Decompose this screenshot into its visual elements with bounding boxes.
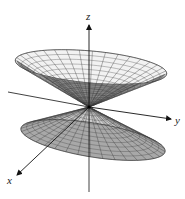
y-axis-arrow: [89, 107, 171, 119]
origin-vertex: [87, 105, 90, 108]
y-axis-label: y: [174, 114, 180, 126]
double-cone-diagram: z y x: [0, 0, 185, 199]
x-axis-label: x: [6, 174, 12, 186]
z-axis-label: z: [85, 10, 91, 22]
upper-cone: [15, 50, 166, 107]
